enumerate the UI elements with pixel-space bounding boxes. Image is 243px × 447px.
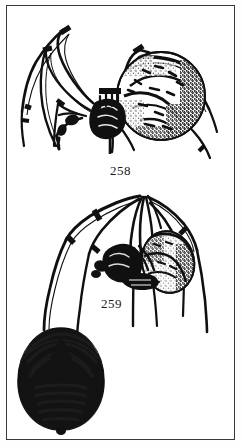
figure-label-259: 259 [101,296,122,312]
figure-abdomen-detail [8,326,116,435]
spider-plate-artwork [0,0,243,447]
figure-258-left-legs [22,27,96,149]
artwork-canvas: 258 259 [0,0,243,447]
illustration-plate: 258 259 [0,0,243,447]
figure-258-group [22,27,217,158]
figure-label-258: 258 [110,163,131,179]
figure-259-group [44,196,207,340]
